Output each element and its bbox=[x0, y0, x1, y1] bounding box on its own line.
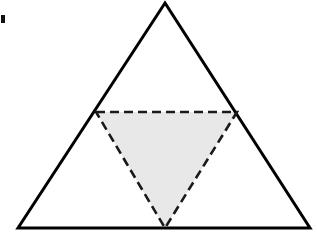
geometry-figure bbox=[0, 0, 317, 246]
left-edge-mark-icon bbox=[1, 15, 5, 23]
figure-container bbox=[0, 0, 317, 246]
